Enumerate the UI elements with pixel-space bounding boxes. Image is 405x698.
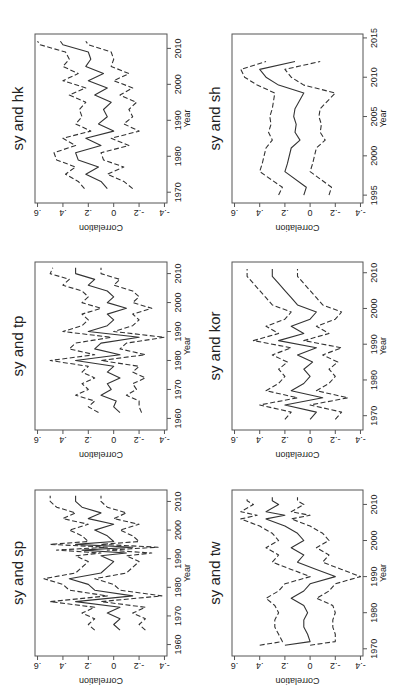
chart-svg: sy and sh19952000200520102015Year.6.4.20… xyxy=(197,28,403,243)
y-tick-label: -.2 xyxy=(330,208,341,218)
y-tick-label: -.4 xyxy=(159,208,170,218)
chart-title: sy and kor xyxy=(206,311,223,380)
series-upper-line xyxy=(241,62,283,196)
plot-frame xyxy=(232,262,363,430)
x-tick-label: 1970 xyxy=(369,639,379,659)
y-tick-label: -.2 xyxy=(330,435,341,445)
x-tick-label: 1970 xyxy=(173,379,183,399)
x-tick-label: 2010 xyxy=(369,263,379,283)
y-tick-label: .4 xyxy=(256,208,264,218)
chart-title: sy and hk xyxy=(9,86,26,151)
rotated-chart: sy and sh19952000200520102015Year.6.4.20… xyxy=(197,28,403,243)
y-tick-label: 0 xyxy=(111,435,116,445)
plot-frame xyxy=(232,490,363,656)
y-tick-label: .2 xyxy=(281,661,289,671)
chart-title: sy and sh xyxy=(206,86,223,150)
series-lower-line xyxy=(291,497,360,645)
y-axis-label: Correlation xyxy=(79,676,123,686)
y-tick-label: .2 xyxy=(85,661,93,671)
x-tick-label: 1970 xyxy=(173,606,183,626)
series-correlation-line xyxy=(260,62,307,196)
series-lower-line xyxy=(298,269,348,419)
x-tick-label: 2015 xyxy=(369,28,379,48)
y-tick-label: -.4 xyxy=(355,435,366,445)
series-lower-line xyxy=(101,268,165,413)
y-axis-label: Correlation xyxy=(275,450,319,460)
chart-title: sy and tp xyxy=(9,316,26,377)
chart-svg: sy and sp196019701980199020002010Year.6.… xyxy=(0,484,207,696)
x-tick-label: 1995 xyxy=(369,185,379,205)
x-axis-label: Year xyxy=(378,564,388,582)
chart-svg: sy and tp196019701980199020002010Year.6.… xyxy=(0,256,207,470)
x-axis-label: Year xyxy=(182,109,192,127)
rotated-chart: sy and kor19701980199020002010Year.6.4.2… xyxy=(197,256,403,470)
y-tick-label: -.2 xyxy=(134,435,145,445)
x-tick-label: 2010 xyxy=(173,264,183,284)
x-tick-label: 2010 xyxy=(173,38,183,58)
x-tick-label: 2000 xyxy=(173,74,183,94)
y-tick-label: -.2 xyxy=(134,661,145,671)
y-tick-label: .6 xyxy=(231,435,239,445)
y-tick-label: .2 xyxy=(85,435,93,445)
y-tick-label: -.2 xyxy=(134,208,145,218)
x-tick-label: 2010 xyxy=(369,494,379,514)
y-tick-label: .4 xyxy=(256,661,264,671)
y-tick-label: .4 xyxy=(59,435,67,445)
x-tick-label: 1980 xyxy=(173,146,183,166)
y-tick-label: 0 xyxy=(111,661,116,671)
series-upper-line xyxy=(38,41,91,188)
series-upper-line xyxy=(241,497,310,645)
rotated-chart: sy and tw19701980199020002010Year.6.4.20… xyxy=(197,484,403,696)
rotated-chart: sy and sp196019701980199020002010Year.6.… xyxy=(0,484,207,696)
chart-svg: sy and kor19701980199020002010Year.6.4.2… xyxy=(197,256,403,470)
y-axis-label: Correlation xyxy=(275,676,319,686)
x-tick-label: 2010 xyxy=(369,67,379,87)
series-correlation-line xyxy=(266,497,335,645)
x-tick-label: 1970 xyxy=(369,406,379,426)
y-tick-label: 0 xyxy=(308,435,313,445)
series-upper-line xyxy=(247,269,297,419)
rotated-chart: sy and hk19701980199020002010Year.6.4.20… xyxy=(0,28,207,243)
y-axis-label: Correlation xyxy=(79,450,123,460)
x-tick-label: 1970 xyxy=(173,182,183,202)
y-tick-label: .6 xyxy=(34,208,42,218)
series-upper-line xyxy=(44,496,107,631)
plot-frame xyxy=(35,262,167,430)
y-tick-label: 0 xyxy=(111,208,116,218)
x-axis-label: Year xyxy=(378,109,388,127)
x-tick-label: 1980 xyxy=(369,603,379,623)
y-tick-label: 0 xyxy=(308,208,313,218)
y-tick-label: -.4 xyxy=(159,435,170,445)
plot-frame xyxy=(232,34,363,203)
y-tick-label: .6 xyxy=(34,661,42,671)
x-tick-label: 2000 xyxy=(369,146,379,166)
x-tick-label: 2000 xyxy=(369,298,379,318)
x-axis-label: Year xyxy=(182,337,192,355)
series-correlation-line xyxy=(69,496,132,631)
y-tick-label: .6 xyxy=(231,661,239,671)
x-tick-label: 1960 xyxy=(173,408,183,428)
y-tick-label: .4 xyxy=(59,661,67,671)
x-axis-label: Year xyxy=(378,337,388,355)
y-axis-label: Correlation xyxy=(79,223,123,233)
x-tick-label: 2000 xyxy=(173,520,183,540)
y-tick-label: .6 xyxy=(231,208,239,218)
y-axis-label: Correlation xyxy=(275,223,319,233)
x-tick-label: 2000 xyxy=(369,531,379,551)
chart-title: sy and tw xyxy=(206,541,223,605)
rotated-chart: sy and tp196019701980199020002010Year.6.… xyxy=(0,256,207,470)
chart-title: sy and sp xyxy=(9,541,26,605)
chart-svg: sy and hk19701980199020002010Year.6.4.20… xyxy=(0,28,207,243)
y-tick-label: .4 xyxy=(256,435,264,445)
series-correlation-line xyxy=(60,41,113,188)
series-lower-line xyxy=(86,41,139,188)
series-lower-line xyxy=(285,62,335,196)
series-correlation-line xyxy=(272,269,322,419)
plot-frame xyxy=(35,34,167,203)
x-axis-label: Year xyxy=(182,564,192,582)
y-tick-label: .2 xyxy=(281,208,289,218)
y-tick-label: -.4 xyxy=(355,661,366,671)
x-tick-label: 1980 xyxy=(369,370,379,390)
x-tick-label: 2000 xyxy=(173,293,183,313)
x-tick-label: 2010 xyxy=(173,491,183,511)
